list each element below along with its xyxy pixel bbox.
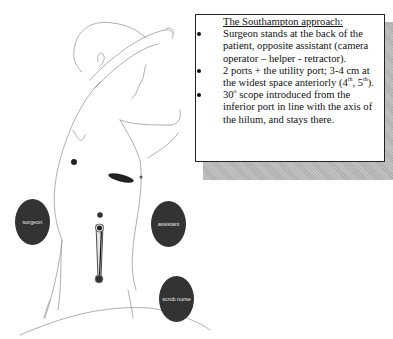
bullet-text-mid: , 5 xyxy=(352,77,363,88)
bullet-item-scope: 30o scope introduced from the inferior p… xyxy=(196,89,380,126)
bullet-dot-icon xyxy=(197,32,201,36)
upper-port-dot xyxy=(71,159,77,165)
bullet-item-surgeon-position: Surgeon stands at the back of the patien… xyxy=(196,28,380,65)
bullet-text-post: scope introduced from the inferior port … xyxy=(223,89,372,124)
bullet-list: Surgeon stands at the back of the patien… xyxy=(196,28,380,126)
assistant-label: assistant xyxy=(158,221,180,227)
southampton-approach-textbox: The Southampton approach: Surgeon stands… xyxy=(195,14,385,162)
assistant-position: assistant xyxy=(151,201,186,247)
bullet-text-post: ). xyxy=(368,77,374,88)
bullet-text: Surgeon stands at the back of the patien… xyxy=(223,28,368,63)
surgeon-label: surgeon xyxy=(23,219,43,225)
scrub-nurse-position: scrub nurse xyxy=(159,276,194,322)
utility-port-incision xyxy=(108,171,135,184)
scrub-nurse-label: scrub nurse xyxy=(162,296,191,302)
bullet-dot-icon xyxy=(197,69,201,73)
inferior-port xyxy=(95,275,103,283)
camera-port-dot xyxy=(97,212,103,218)
diagram-canvas: surgeon assistant scrub nurse The Southa… xyxy=(0,0,393,339)
bullet-item-ports: 2 ports + the utility port; 3-4 cm at th… xyxy=(196,65,380,89)
surgeon-position: surgeon xyxy=(15,199,50,245)
textbox-title: The Southampton approach: xyxy=(223,16,380,28)
bullet-dot-icon xyxy=(197,93,201,97)
bullet-text-pre: 30 xyxy=(223,89,234,100)
